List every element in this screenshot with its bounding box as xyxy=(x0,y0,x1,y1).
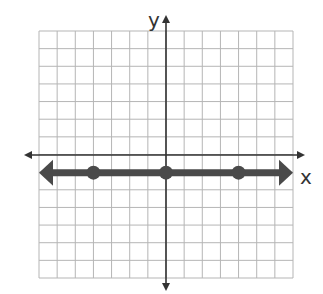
line-arrow-right-icon xyxy=(279,160,293,186)
data-point xyxy=(86,166,100,180)
data-point xyxy=(159,166,173,180)
y-axis-arrow-up-icon xyxy=(162,15,170,23)
data-point xyxy=(232,166,246,180)
y-axis-label: y xyxy=(148,8,160,32)
y-axis-arrow-down-icon xyxy=(162,283,170,291)
x-axis-arrow-left-icon xyxy=(24,151,32,159)
line-arrow-left-icon xyxy=(39,160,53,186)
axes: y x xyxy=(24,8,312,291)
x-axis-label: x xyxy=(300,165,312,189)
x-axis-arrow-right-icon xyxy=(297,151,305,159)
coordinate-plane: y x xyxy=(0,0,323,294)
